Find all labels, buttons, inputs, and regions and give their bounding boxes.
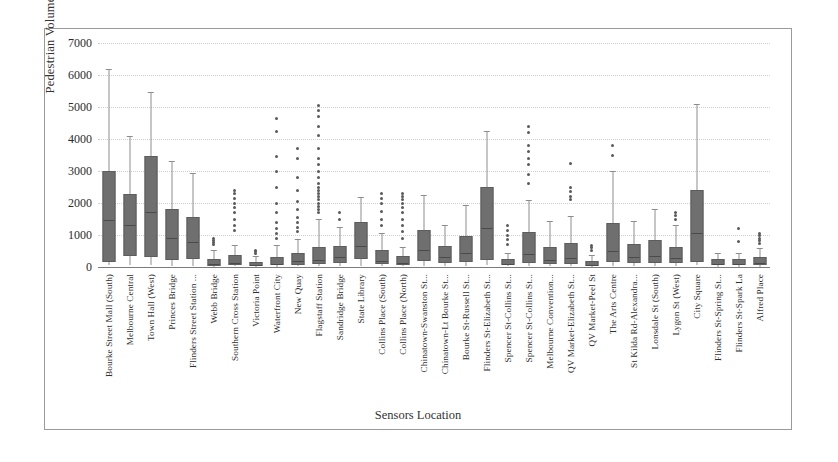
box-plot-column: The Arts Centre (602, 43, 623, 267)
outlier-point (569, 198, 572, 201)
box (396, 256, 409, 265)
upper-whisker (465, 205, 466, 237)
upper-whisker (318, 219, 319, 247)
x-axis-tick-label: Webb Bridge (209, 274, 219, 324)
x-axis-tick-label: Chinatown-Lt Bourke St... (440, 274, 450, 374)
x-axis-tick-label: Alfred Place (755, 274, 765, 321)
box-plot-column: Lonsdale St (South) (644, 43, 665, 267)
upper-whisker-cap (189, 173, 196, 174)
upper-whisker (150, 92, 151, 156)
y-axis-tick-label: 6000 (68, 68, 92, 83)
lower-whisker (171, 260, 172, 266)
outlier-point (674, 218, 677, 221)
box (417, 230, 430, 260)
upper-whisker-cap (126, 136, 133, 137)
outlier-point (380, 224, 383, 227)
upper-whisker (528, 200, 529, 232)
box (564, 243, 577, 263)
upper-whisker (759, 248, 760, 257)
upper-whisker-cap (525, 200, 532, 201)
x-axis-tick-label: Princes Bridge (167, 274, 177, 330)
outlier-point (233, 192, 236, 195)
outlier-point (380, 202, 383, 205)
outlier-point (527, 125, 530, 128)
box (627, 244, 640, 264)
upper-whisker-cap (147, 92, 154, 93)
x-axis-tick-label: Sandridge Bridge (335, 274, 345, 340)
outlier-point (233, 224, 236, 227)
outlier-point (275, 211, 278, 214)
outlier-point (380, 197, 383, 200)
upper-whisker-cap (462, 205, 469, 206)
box-plot-column: Sandridge Bridge (329, 43, 350, 267)
outlier-point (275, 186, 278, 189)
box-plot-column: Bourke St-Russell St... (455, 43, 476, 267)
outlier-point (569, 162, 572, 165)
box-plot-column: Flagstaff Station (308, 43, 329, 267)
box (207, 259, 220, 266)
box (543, 247, 556, 264)
outlier-point (401, 211, 404, 214)
upper-whisker (549, 221, 550, 248)
x-axis-tick-label: Lonsdale St (South) (650, 274, 660, 349)
x-axis-tick-label: Collins Place (North) (398, 274, 408, 355)
outlier-point (233, 197, 236, 200)
outlier-point (275, 221, 278, 224)
outlier-point (401, 202, 404, 205)
lower-whisker (129, 256, 130, 265)
upper-whisker (402, 247, 403, 256)
lower-whisker (108, 262, 109, 265)
box (375, 250, 388, 264)
lower-whisker (675, 263, 676, 266)
median-line (481, 228, 492, 229)
outlier-point (338, 211, 341, 214)
x-axis-tick-label: Southern Cross Station (230, 274, 240, 361)
outlier-point (296, 226, 299, 229)
upper-whisker-cap (735, 253, 742, 254)
outlier-point (275, 117, 278, 120)
upper-whisker (381, 233, 382, 250)
upper-whisker-cap (378, 233, 385, 234)
outlier-point (674, 214, 677, 217)
chart-figure: Pedestrian Volume 0100020003000400050006… (44, 28, 792, 430)
upper-whisker (486, 131, 487, 187)
box-plot-column: Princes Bridge (161, 43, 182, 267)
box-plot-column: Spencer St-Collins St... (497, 43, 518, 267)
outlier-point (611, 154, 614, 157)
outlier-point (401, 206, 404, 209)
y-axis-tick-label: 4000 (68, 132, 92, 147)
upper-whisker (696, 104, 697, 190)
median-line (565, 258, 576, 259)
upper-whisker-cap (693, 104, 700, 105)
outlier-point (317, 109, 320, 112)
outlier-point (506, 243, 509, 246)
x-axis-tick-label: Flinders St-Spring St... (713, 274, 723, 361)
outlier-point (233, 229, 236, 232)
x-axis-tick-label: Bourke Street Mall (South) (104, 274, 114, 377)
y-axis-tick-label: 5000 (68, 100, 92, 115)
upper-whisker-cap (651, 209, 658, 210)
outlier-point (317, 147, 320, 150)
median-line (103, 220, 114, 221)
outlier-point (527, 173, 530, 176)
lower-whisker (486, 260, 487, 266)
box (522, 232, 535, 263)
median-line (397, 263, 408, 264)
outlier-point (758, 237, 761, 240)
lower-whisker (570, 264, 571, 267)
box (501, 259, 514, 265)
x-axis-title: Sensors Location (45, 408, 791, 423)
box-plot-column: Victoria Point (245, 43, 266, 267)
upper-whisker-cap (273, 245, 280, 246)
outlier-point (296, 157, 299, 160)
x-axis-tick-label: Victoria Point (251, 274, 261, 327)
lower-whisker (339, 263, 340, 266)
box-plot-column: Flinders St-Spring St... (707, 43, 728, 267)
upper-whisker-cap (567, 216, 574, 217)
x-axis-tick-label: Waterfront City (272, 274, 282, 333)
outlier-point (317, 163, 320, 166)
x-axis-tick-label: QV Market-Elizabeth St... (566, 274, 576, 373)
x-axis-tick-label: State Library (356, 274, 366, 324)
median-line (607, 251, 618, 252)
outlier-point (506, 234, 509, 237)
